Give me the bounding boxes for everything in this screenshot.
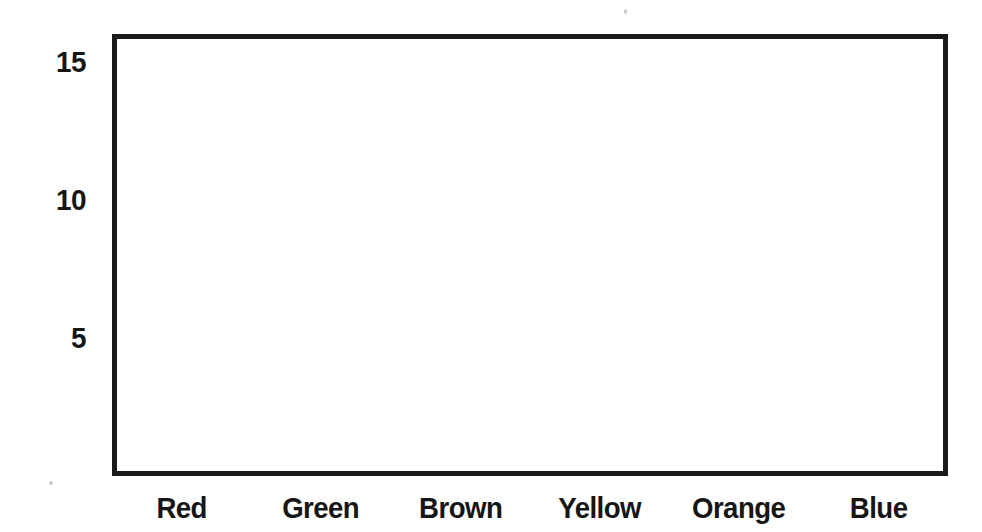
x-axis-tick-labels: RedGreenBrownYellowOrangeBlue bbox=[112, 492, 948, 532]
y-tick-label-10: 10 bbox=[6, 185, 86, 215]
x-tick-label-red: Red bbox=[118, 492, 246, 524]
scan-speck-bottom-left bbox=[49, 481, 53, 485]
x-tick-label-green: Green bbox=[257, 492, 385, 524]
chart-screenshot: 15105 RedGreenBrownYellowOrangeBlue bbox=[0, 0, 982, 532]
y-tick-label-15: 15 bbox=[6, 47, 86, 77]
x-tick-label-yellow: Yellow bbox=[536, 492, 664, 524]
scan-speck-top bbox=[624, 9, 627, 14]
plot-frame bbox=[112, 34, 948, 476]
x-tick-label-blue: Blue bbox=[814, 492, 942, 524]
plot-area bbox=[117, 39, 943, 471]
x-tick-label-orange: Orange bbox=[675, 492, 803, 524]
y-tick-label-5: 5 bbox=[6, 323, 86, 353]
x-tick-label-brown: Brown bbox=[396, 492, 524, 524]
y-axis-tick-labels: 15105 bbox=[0, 34, 86, 476]
